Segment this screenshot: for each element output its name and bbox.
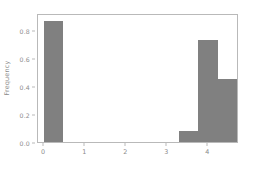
- x-tick-mark: [43, 143, 44, 146]
- histogram-figure: 0.00.20.40.60.8 01234 Frequency: [0, 0, 253, 170]
- x-tick-label: 4: [205, 148, 209, 156]
- x-tick-label: 0: [41, 148, 45, 156]
- x-tick-label: 3: [164, 148, 168, 156]
- x-tick-mark: [207, 143, 208, 146]
- x-tick-label: 1: [82, 148, 86, 156]
- x-tick-mark: [125, 143, 126, 146]
- x-tick-label: 2: [123, 148, 127, 156]
- x-axis-ticks: 01234: [0, 0, 253, 170]
- y-axis-title: Frequency: [3, 61, 11, 96]
- x-tick-mark: [166, 143, 167, 146]
- x-tick-mark: [84, 143, 85, 146]
